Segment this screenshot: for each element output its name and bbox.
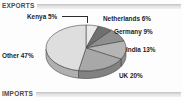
kenya-leader-line-vertical <box>87 16 88 23</box>
slice-label-india: India 13% <box>126 46 155 53</box>
slice-label-germany: Germany 9% <box>114 28 153 35</box>
exports-chart-panel: EXPORTS Kenya 5% Netherlands 6% Germany … <box>0 0 182 101</box>
kenya-leader-line-horizontal <box>62 16 88 17</box>
slice-label-kenya: Kenya 5% <box>27 13 57 20</box>
slice-label-other: Other 47% <box>2 52 34 59</box>
exports-section-title: EXPORTS <box>0 2 37 10</box>
exports-divider-rule <box>37 4 181 9</box>
exports-pie-chart: Kenya 5% Netherlands 6% Germany 9% India… <box>0 10 182 89</box>
slice-label-netherlands: Netherlands 6% <box>103 15 151 22</box>
slice-label-uk: UK 20% <box>119 72 143 79</box>
imports-section-header: IMPORTS <box>0 89 182 99</box>
imports-divider-rule <box>36 92 181 97</box>
imports-section-title: IMPORTS <box>0 90 36 98</box>
